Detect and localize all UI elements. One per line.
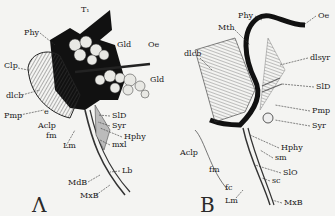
label-b-dlsyr: dlsyr	[310, 53, 330, 62]
label-mdb: MdB	[68, 178, 87, 187]
label-lb: Lb	[122, 166, 132, 175]
label-oe: Oe	[148, 40, 160, 49]
label-b-dlcb: dlcb	[184, 49, 201, 58]
label-mxl: mxl	[112, 140, 127, 149]
label-lm: Lm	[63, 141, 76, 150]
label-mxb: MxB	[80, 191, 99, 200]
label-b-pmp: Pmp	[312, 106, 330, 115]
label-aclp: Aclp	[37, 121, 56, 130]
label-gld-right: Gld	[150, 75, 164, 84]
panel-b: Phy Oe Mth dlcb dlsyr SlD Pmp Syr Aclp H…	[179, 11, 330, 216]
label-b-sld: SlD	[316, 82, 330, 91]
label-gld-top: Gld	[117, 40, 131, 49]
label-b-mxb: MxB	[284, 198, 303, 207]
label-b-sm: sm	[275, 153, 287, 162]
label-e: e	[44, 107, 49, 116]
label-fm: fm	[46, 131, 57, 140]
label-b-fc: fc	[225, 183, 233, 192]
anatomical-figure: T₁ Phy Gld Oe Gld Clp dlcb Pmp e Aclp fm…	[0, 0, 335, 216]
label-clp: Clp	[4, 61, 18, 70]
label-b-hphy: Hphy	[281, 143, 303, 152]
panel-b-label: B	[200, 193, 215, 216]
label-b-fm: fm	[209, 165, 220, 174]
panel-a: T₁ Phy Gld Oe Gld Clp dlcb Pmp e Aclp fm…	[4, 5, 164, 216]
label-pmp: Pmp	[4, 111, 22, 120]
label-b-slo: SlO	[283, 168, 298, 177]
label-b-phy: Phy	[238, 11, 254, 20]
label-b-aclp: Aclp	[179, 148, 198, 157]
label-dlcb: dlcb	[6, 91, 23, 100]
label-hphy: Hphy	[124, 132, 146, 141]
label-b-syr: Syr	[312, 121, 326, 130]
label-t1: T₁	[81, 5, 90, 14]
label-sld: SlD	[112, 111, 126, 120]
label-b-sc: sc	[272, 176, 281, 185]
label-syr: Syr	[112, 121, 126, 130]
label-b-oe: Oe	[318, 11, 330, 20]
label-b-mth: Mth	[218, 23, 235, 32]
label-phy: Phy	[24, 28, 40, 37]
panel-a-label: Λ	[31, 193, 47, 216]
